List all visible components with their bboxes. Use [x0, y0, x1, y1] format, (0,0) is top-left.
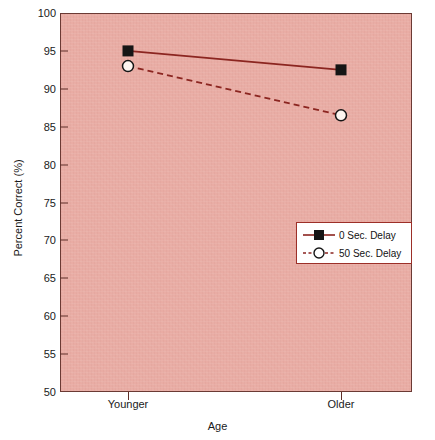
legend-label-0-sec: 0 Sec. Delay — [336, 230, 396, 241]
y-tick-mark-75 — [60, 202, 68, 203]
plot-background-texture — [61, 14, 411, 391]
x-tick-label-younger: Younger — [108, 398, 149, 410]
y-tick-mark-90 — [60, 88, 68, 89]
y-tick-mark-95 — [60, 50, 68, 51]
y-tick-label-75: 75 — [22, 197, 56, 209]
legend: 0 Sec. Delay 50 Sec. Delay — [296, 222, 412, 264]
y-tick-mark-80 — [60, 164, 68, 165]
y-tick-label-60: 60 — [22, 310, 56, 322]
y-tick-label-70: 70 — [22, 234, 56, 246]
y-tick-label-80: 80 — [22, 159, 56, 171]
y-tick-label-55: 55 — [22, 348, 56, 360]
y-tick-mark-60 — [60, 316, 68, 317]
y-tick-label-50: 50 — [22, 386, 56, 398]
y-tick-label-65: 65 — [22, 272, 56, 284]
chart-figure: 100 95 90 85 80 75 70 65 60 55 50 Younge… — [0, 0, 435, 440]
legend-label-50-sec: 50 Sec. Delay — [336, 248, 401, 259]
y-tick-label-100: 100 — [22, 7, 56, 19]
plot-area — [60, 13, 412, 392]
legend-entry-0-sec: 0 Sec. Delay — [302, 226, 406, 244]
y-tick-label-85: 85 — [22, 121, 56, 133]
y-axis-title: Percent Correct (%) — [12, 128, 24, 288]
y-tick-mark-65 — [60, 278, 68, 279]
y-tick-label-90: 90 — [22, 83, 56, 95]
y-tick-mark-70 — [60, 240, 68, 241]
y-tick-label-95: 95 — [22, 45, 56, 57]
legend-marker-open-circle-icon — [302, 245, 336, 261]
y-tick-mark-55 — [60, 354, 68, 355]
y-axis-ticks: 100 95 90 85 80 75 70 65 60 55 50 — [0, 0, 56, 440]
legend-entry-50-sec: 50 Sec. Delay — [302, 244, 406, 262]
x-axis-title: Age — [0, 420, 435, 432]
y-tick-mark-85 — [60, 126, 68, 127]
legend-marker-filled-square-icon — [302, 227, 336, 243]
x-tick-label-older: Older — [328, 398, 355, 410]
